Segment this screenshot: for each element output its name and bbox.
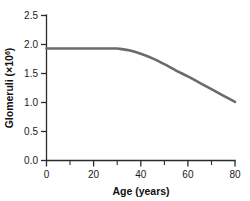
x-tick-label-1: 20 bbox=[88, 169, 100, 180]
x-tick-label-3: 60 bbox=[182, 169, 194, 180]
y-tick-label-2: 1.0 bbox=[24, 97, 38, 108]
y-axis-title-close: ) bbox=[3, 48, 15, 52]
x-tick-label-2: 40 bbox=[135, 169, 147, 180]
y-axis-tick-labels: 0.0 0.5 1.0 1.5 2.0 2.5 bbox=[24, 10, 38, 166]
y-tick-label-1: 0.5 bbox=[24, 126, 38, 137]
y-axis-title-base: Glomeruli (×10 bbox=[3, 55, 15, 128]
x-axis-title: Age (years) bbox=[112, 185, 169, 197]
glomeruli-vs-age-line-chart: 0.0 0.5 1.0 1.5 2.0 2.5 0 20 40 60 bbox=[0, 0, 250, 201]
x-axis-major-ticks bbox=[47, 161, 236, 167]
x-axis-tick-labels: 0 20 40 60 80 bbox=[44, 169, 241, 180]
y-tick-label-3: 1.5 bbox=[24, 68, 38, 79]
y-tick-label-4: 2.0 bbox=[24, 39, 38, 50]
svg-text:Glomeruli (×106): Glomeruli (×106) bbox=[3, 48, 15, 129]
chart-container: 0.0 0.5 1.0 1.5 2.0 2.5 0 20 40 60 bbox=[0, 0, 250, 201]
x-tick-label-0: 0 bbox=[44, 169, 50, 180]
y-tick-label-0: 0.0 bbox=[24, 155, 38, 166]
data-series-line bbox=[47, 49, 236, 102]
y-axis-ticks bbox=[41, 16, 47, 161]
y-tick-label-5: 2.5 bbox=[24, 10, 38, 21]
x-tick-label-4: 80 bbox=[229, 169, 241, 180]
y-axis-title: Glomeruli (×106) bbox=[3, 48, 15, 129]
